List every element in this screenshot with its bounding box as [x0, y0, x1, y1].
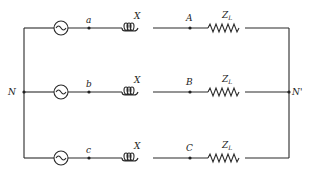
- terminal-B-dot: [188, 90, 191, 93]
- ac-source-icon: [54, 85, 68, 99]
- neutral-N-dot: [22, 90, 25, 93]
- reactance-label-b: X: [133, 75, 141, 85]
- resistor-icon: [208, 88, 239, 96]
- resistor-icon: [208, 24, 239, 32]
- terminal-B-label: B: [185, 77, 193, 87]
- ac-source-icon: [54, 151, 68, 165]
- load-label-b: ZL: [221, 74, 232, 85]
- terminal-a-label: a: [86, 15, 91, 25]
- phase-c-branch: c X C ZL: [24, 140, 289, 165]
- load-label-a: ZL: [221, 10, 232, 21]
- ac-source-icon: [54, 21, 68, 35]
- terminal-b-label: b: [86, 79, 92, 89]
- phase-a-branch: a X A ZL: [24, 10, 289, 35]
- phase-b-branch: N b X B ZL N': [7, 74, 302, 99]
- inductor-icon: [122, 87, 138, 95]
- neutral-N-prime-label: N': [291, 87, 302, 97]
- terminal-a-dot: [87, 26, 90, 29]
- resistor-icon: [208, 154, 239, 162]
- load-label-c: ZL: [221, 140, 232, 151]
- terminal-A-label: A: [185, 13, 193, 23]
- terminal-C-label: C: [186, 143, 193, 153]
- reactance-label-c: X: [133, 141, 141, 151]
- inductor-icon: [122, 23, 138, 31]
- inductor-icon: [122, 153, 138, 161]
- reactance-label-a: X: [133, 11, 141, 21]
- terminal-b-dot: [87, 90, 90, 93]
- terminal-c-label: c: [86, 145, 91, 155]
- neutral-N-prime-dot: [287, 90, 290, 93]
- terminal-A-dot: [188, 26, 191, 29]
- terminal-c-dot: [87, 156, 90, 159]
- circuit-diagram: a X A ZL N b X B ZL: [0, 0, 315, 180]
- terminal-C-dot: [188, 156, 191, 159]
- neutral-N-label: N: [7, 87, 17, 97]
